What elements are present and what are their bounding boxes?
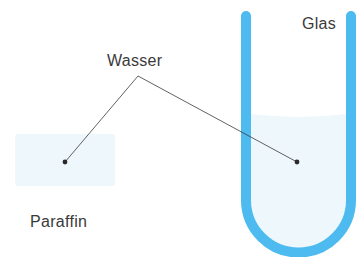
water-point-paraffin bbox=[63, 160, 68, 165]
label-water: Wasser bbox=[107, 53, 162, 69]
water-point-glass bbox=[295, 160, 300, 165]
water-in-glass bbox=[251, 114, 346, 248]
label-paraffin: Paraffin bbox=[30, 214, 87, 230]
label-glass: Glas bbox=[302, 16, 336, 32]
